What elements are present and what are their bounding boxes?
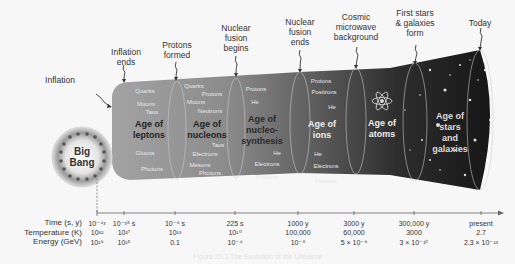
timeline-time-value: 10⁻³⁵ s bbox=[113, 219, 135, 229]
row-label-energy: Energy (GeV) bbox=[33, 237, 82, 247]
event-label: Protonsformed bbox=[162, 40, 191, 60]
particle-label: Positrons bbox=[311, 89, 336, 96]
particle-label: Quarks bbox=[184, 83, 203, 90]
particle-label: Neutrons bbox=[198, 108, 222, 115]
particle-label: He bbox=[328, 104, 336, 111]
event-label: First stars& galaxiesform bbox=[395, 8, 434, 38]
age-label: Age ofleptons bbox=[133, 119, 165, 141]
particle-label: He bbox=[273, 150, 281, 157]
row-label-temperature: Temperature (K) bbox=[24, 228, 82, 238]
timeline-time-value: 1000 y bbox=[287, 219, 308, 229]
particle-label: Electrons bbox=[313, 163, 338, 170]
particle-label: Electrons bbox=[254, 161, 279, 168]
row-label-time: Time (s, y) bbox=[45, 218, 82, 228]
timeline-time-value: 10⁻⁴³ bbox=[88, 219, 105, 229]
event-label: Inflationends bbox=[111, 47, 141, 67]
particle-label: Taus bbox=[212, 142, 225, 149]
particle-label: Taus bbox=[146, 109, 159, 116]
particle-label: Muons bbox=[137, 101, 155, 108]
particle-label: Photons bbox=[256, 174, 278, 181]
event-label: Nuclearfusionbegins bbox=[221, 23, 250, 53]
particle-label: Protons bbox=[311, 78, 332, 85]
timeline-time-value: 10⁻⁶ s bbox=[165, 219, 185, 229]
timeline-temp-value: 10²⁷ bbox=[118, 228, 131, 238]
age-label: Age ofnucleons bbox=[187, 119, 227, 141]
big-bang-label: Big Bang bbox=[70, 146, 95, 168]
timeline-temp-value: 2.7 bbox=[476, 228, 486, 238]
particle-label: Gluons bbox=[135, 150, 154, 157]
timeline-time-value: 3000 y bbox=[343, 219, 364, 229]
timeline-temp-value: 100,000 bbox=[285, 228, 310, 238]
age-label: Age ofions bbox=[308, 119, 336, 141]
timeline-energy-value: 5 × 10⁻⁹ bbox=[341, 238, 368, 248]
timeline-energy-value: 10⁻⁸ bbox=[291, 238, 306, 248]
timeline-temp-value: 10³² bbox=[91, 228, 103, 238]
event-label: Inflation bbox=[45, 75, 75, 85]
event-label: Cosmicmicrowavebackground bbox=[334, 12, 378, 42]
particle-label: Quarks bbox=[135, 88, 154, 95]
particle-label: He bbox=[251, 99, 259, 106]
big-bang-line1: Big bbox=[70, 146, 95, 157]
timeline-energy-value: 10¹⁹ bbox=[90, 238, 103, 248]
timeline-time-value: 225 s bbox=[226, 219, 243, 229]
timeline-energy-value: 0.1 bbox=[170, 238, 180, 248]
timeline-energy-value: 2.3 × 10⁻¹³ bbox=[464, 238, 498, 248]
timeline-energy-value: 10¹⁵ bbox=[117, 238, 130, 248]
particle-label: Protons bbox=[202, 91, 223, 98]
age-label: Age ofstarsandgalaxies bbox=[432, 111, 468, 155]
particle-label: Photons bbox=[199, 170, 221, 177]
particle-label: Muons bbox=[187, 99, 205, 106]
event-label: Today bbox=[469, 18, 492, 28]
timeline-temp-value: 60,000 bbox=[343, 228, 364, 238]
age-label: Age ofatoms bbox=[368, 118, 396, 140]
particle-label: Photons bbox=[141, 166, 163, 173]
timeline-energy-value: 10⁻⁴ bbox=[228, 238, 243, 248]
particle-label: He bbox=[314, 151, 322, 158]
figure-caption: Figure 29.1 The Evolution of the Univers… bbox=[0, 253, 515, 260]
timeline-time-value: present bbox=[469, 219, 492, 229]
timeline-energy-value: 3 × 10⁻¹⁰ bbox=[400, 238, 429, 248]
timeline-temp-value: 10¹³ bbox=[169, 228, 181, 238]
timeline-temp-value: 10¹⁰ bbox=[228, 228, 241, 238]
timeline-temp-value: 3000 bbox=[406, 228, 422, 238]
particle-label: Mesons bbox=[189, 162, 210, 169]
age-label: Age ofnucleo-synthesis bbox=[241, 114, 283, 147]
particle-label: Protons bbox=[246, 86, 267, 93]
particle-label: Electrons bbox=[192, 151, 217, 158]
event-label: Nuclearfusionends bbox=[285, 17, 314, 47]
big-bang-line2: Bang bbox=[70, 157, 95, 168]
timeline-time-value: 300,000 y bbox=[399, 219, 430, 229]
particle-label: Photons bbox=[315, 178, 337, 185]
